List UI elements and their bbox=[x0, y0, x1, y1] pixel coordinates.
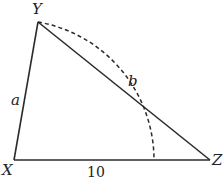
vertex-label-x: X bbox=[1, 161, 14, 178]
arc-label-b: b bbox=[128, 72, 138, 90]
dashed-arc bbox=[38, 22, 154, 160]
side-label-a: a bbox=[11, 91, 20, 109]
vertex-label-z: Z bbox=[211, 151, 223, 169]
triangle-diagram: Y X Z a 10 b bbox=[0, 0, 223, 178]
vertex-label-y: Y bbox=[32, 0, 44, 18]
side-label-base: 10 bbox=[87, 164, 105, 178]
side-yz bbox=[38, 22, 210, 160]
